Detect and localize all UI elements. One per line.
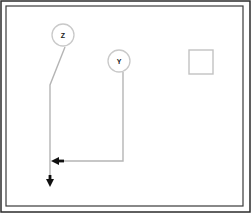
node-y-label: Y [117, 58, 122, 65]
square-shape[interactable] [189, 50, 213, 74]
page-background [0, 0, 251, 213]
diagram-svg: Z Y [0, 0, 251, 213]
connector-z-arrow-stem [49, 175, 52, 180]
connector-y-arrow-stem [59, 160, 64, 163]
node-y[interactable]: Y [108, 50, 130, 72]
node-z[interactable]: Z [52, 24, 74, 46]
diagram-canvas: Z Y [0, 0, 251, 213]
node-z-label: Z [61, 32, 66, 39]
